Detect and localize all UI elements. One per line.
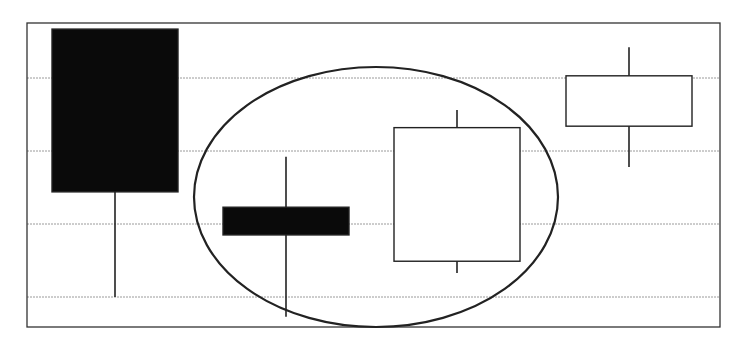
candle-body bbox=[223, 207, 349, 235]
candle-body bbox=[566, 76, 692, 126]
candle-3 bbox=[394, 110, 520, 273]
candle-1 bbox=[52, 29, 178, 297]
candlestick-chart bbox=[0, 0, 737, 349]
candle-4 bbox=[566, 47, 692, 167]
candles bbox=[52, 29, 692, 317]
candle-body bbox=[52, 29, 178, 192]
candle-2 bbox=[223, 157, 349, 317]
candle-body bbox=[394, 128, 520, 262]
